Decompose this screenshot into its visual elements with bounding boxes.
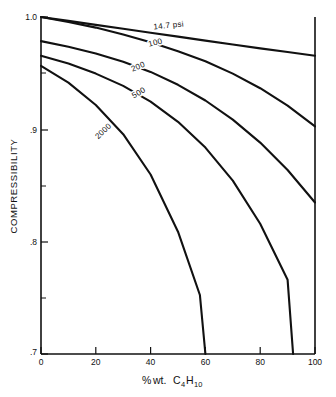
x-axis-title-hydrogen: H [186,374,194,386]
x-axis-title-carbon: C [173,374,181,386]
x-tick-label-40: 40 [146,357,156,367]
y-tick-label-0.7: .7 [30,347,37,357]
y-tick-label-0.9: .9 [30,125,37,135]
x-tick-label-60: 60 [201,357,211,367]
x-axis-title-percent: % [142,374,151,386]
y-tick-label-0.8: .8 [30,237,37,247]
x-tick-label-0: 0 [39,357,44,367]
x-axis-title-hydrogen-subscript: 10 [194,380,202,389]
compressibility-vs-butane-chart: 1.0 .9 .8 .7 0 20 40 60 80 100 COMPRESSI… [0,0,336,397]
y-tick-label-1.0: 1.0 [25,12,37,22]
x-axis-title-carbon-subscript: 4 [181,380,185,389]
x-tick-label-20: 20 [91,357,101,367]
chart-background [0,0,336,397]
x-tick-label-100: 100 [308,357,322,367]
y-axis-title: COMPRESSIBILITY [8,138,19,233]
chart-figure: 1.0 .9 .8 .7 0 20 40 60 80 100 COMPRESSI… [0,0,336,397]
x-tick-label-80: 80 [255,357,265,367]
x-axis-title-wt: wt. [152,374,166,386]
